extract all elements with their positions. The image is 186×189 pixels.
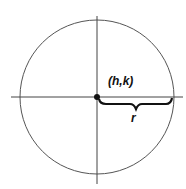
center-label: (h,k)	[108, 74, 133, 88]
circle-diagram: (h,k) r	[0, 0, 186, 189]
radius-brace	[99, 98, 172, 109]
radius-label: r	[131, 111, 137, 125]
